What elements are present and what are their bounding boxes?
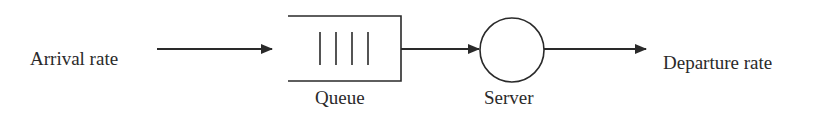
queueing-diagram: Arrival rate Queue Server Departure rate <box>0 0 832 117</box>
server-circle <box>480 18 544 82</box>
queue-label: Queue <box>315 88 365 107</box>
arrival-rate-label: Arrival rate <box>30 49 118 68</box>
server-label: Server <box>484 88 534 107</box>
departure-rate-label: Departure rate <box>663 53 772 72</box>
queue-box <box>288 16 401 81</box>
